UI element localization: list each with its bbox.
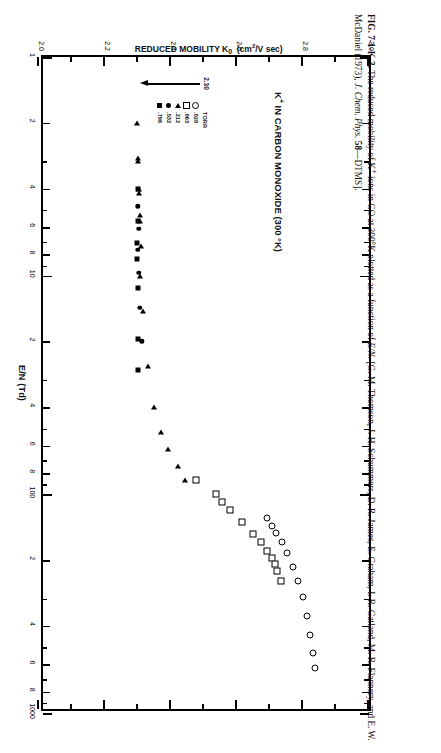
x-axis-tick-label: 100	[29, 486, 36, 498]
y-axis-major-tick	[38, 57, 40, 66]
data-point-square-open	[227, 507, 234, 514]
y-axis-minor-tick	[269, 57, 271, 62]
y-axis-major-tick	[170, 57, 172, 66]
caption-figure-number: FIG. 7-1-K-3.	[366, 14, 376, 68]
x-axis-minor-tick	[43, 341, 50, 343]
legend-item-028[interactable]: .028	[191, 100, 200, 128]
x-axis-minor-tick	[43, 679, 48, 681]
data-point-square-filled	[136, 337, 141, 342]
data-point-circle	[309, 649, 316, 656]
data-point-triangle-left	[135, 159, 141, 164]
x-axis-tick-label: 4	[29, 403, 36, 407]
y-axis-minor-tick	[269, 704, 271, 709]
legend-label: .212	[175, 112, 181, 123]
data-point-circle	[290, 563, 297, 570]
y-axis-title-exponent: 2	[252, 43, 255, 49]
legend-marker-square-filled	[157, 103, 162, 108]
x-axis-minor-tick	[43, 429, 48, 431]
caption-body: The reduced mobility of K+ ions in CO at…	[353, 14, 376, 741]
data-point-square-filled	[136, 218, 141, 223]
legend-marker-square-open	[183, 102, 190, 109]
x-axis-minor-tick	[43, 626, 50, 628]
x-axis-minor-tick	[43, 407, 50, 409]
data-point-circle	[300, 594, 307, 601]
y-axis-title-subscript: 0	[228, 48, 232, 55]
x-axis-tick-label: 8	[29, 688, 36, 692]
x-axis-minor-tick	[43, 266, 48, 268]
plot-area	[41, 55, 371, 711]
y-axis-major-tick	[38, 700, 40, 709]
x-axis-minor-tick	[43, 380, 48, 382]
data-point-circle	[303, 612, 310, 619]
data-point-square-filled	[136, 186, 141, 191]
data-point-circle	[272, 529, 279, 536]
data-point-square-open	[212, 491, 219, 498]
y-axis-major-tick	[236, 700, 238, 709]
chart-title-element: K	[273, 92, 284, 99]
legend-label: .532	[166, 112, 172, 123]
chart-title-rest: IN CARBON MONOXIDE (300 °K)	[273, 103, 284, 252]
x-axis-minor-tick	[43, 560, 50, 562]
data-point-circle-filled	[136, 226, 141, 231]
figure-caption: FIG. 7-1-K-3. The reduced mobility of K+…	[323, 0, 381, 753]
x-axis-minor-tick	[43, 599, 48, 601]
data-point-square-open	[274, 567, 281, 574]
legend-item-796[interactable]: .796	[155, 100, 164, 128]
x-axis-minor-tick	[43, 210, 48, 212]
x-axis-minor-tick	[43, 242, 48, 244]
data-point-circle	[278, 539, 285, 546]
legend-symbol-square-filled-icon	[157, 100, 163, 111]
data-point-circle-filled	[136, 204, 141, 209]
x-axis-minor-tick	[43, 227, 50, 229]
x-axis-tick-label: 1	[29, 53, 36, 57]
y-axis-title-text: REDUCED MOBILITY K	[135, 44, 228, 54]
data-point-triangle-left	[158, 430, 164, 435]
data-point-circle	[307, 632, 314, 639]
data-point-circle	[295, 577, 302, 584]
x-axis-minor-tick	[43, 446, 50, 448]
legend-item-532[interactable]: .532	[164, 100, 173, 128]
y-axis-minor-tick	[71, 57, 73, 62]
legend-item-212[interactable]: .212	[173, 100, 182, 128]
y-axis-minor-tick	[203, 57, 205, 62]
y-axis-minor-tick	[137, 57, 139, 62]
legend-label: .796	[157, 112, 163, 123]
data-point-square-open	[219, 498, 226, 505]
x-axis-tick-label: 6	[29, 223, 36, 227]
legend-item-063[interactable]: .063	[182, 100, 191, 128]
data-point-square-filled	[136, 367, 141, 372]
data-point-circle	[311, 664, 318, 671]
data-point-triangle-left	[182, 478, 188, 483]
x-axis-minor-tick	[43, 254, 50, 256]
x-axis-tick-label: 2	[29, 338, 36, 342]
x-axis-tick-label: 6	[29, 661, 36, 665]
x-axis-tick-label: 4	[29, 185, 36, 189]
data-point-square-open	[257, 539, 264, 546]
data-point-square-filled	[135, 286, 140, 291]
x-axis-tick-label: 6	[29, 442, 36, 446]
y-axis-major-tick	[104, 700, 106, 709]
x-axis-major-tick	[43, 713, 52, 715]
x-axis-title: E/N (Td)	[17, 55, 27, 711]
x-axis-minor-tick	[43, 161, 48, 163]
x-axis-minor-tick	[43, 664, 50, 666]
x-axis-minor-tick	[43, 484, 48, 486]
legend-unit-label: TORR	[202, 112, 208, 128]
x-axis-major-tick	[43, 57, 52, 59]
annotation-line	[146, 83, 200, 84]
data-point-square-filled	[135, 257, 140, 262]
data-point-triangle-left	[152, 405, 158, 410]
x-axis-minor-tick	[43, 189, 50, 191]
y-axis-major-tick	[302, 57, 304, 66]
data-point-triangle-left	[134, 120, 140, 125]
x-axis-tick-label: 1000	[29, 703, 36, 719]
legend-symbol-square-open-icon	[183, 100, 190, 111]
x-axis-tick-label: 8	[29, 251, 36, 255]
x-axis-tick-label: 4	[29, 622, 36, 626]
legend-symbol-triangle-left-icon	[174, 100, 180, 111]
data-point-triangle-left	[145, 364, 151, 369]
y-axis-major-tick	[236, 57, 238, 66]
legend-marker-triangle-left	[175, 103, 181, 108]
legend-unit-header: TORR	[200, 100, 209, 128]
data-point-circle	[263, 514, 270, 521]
